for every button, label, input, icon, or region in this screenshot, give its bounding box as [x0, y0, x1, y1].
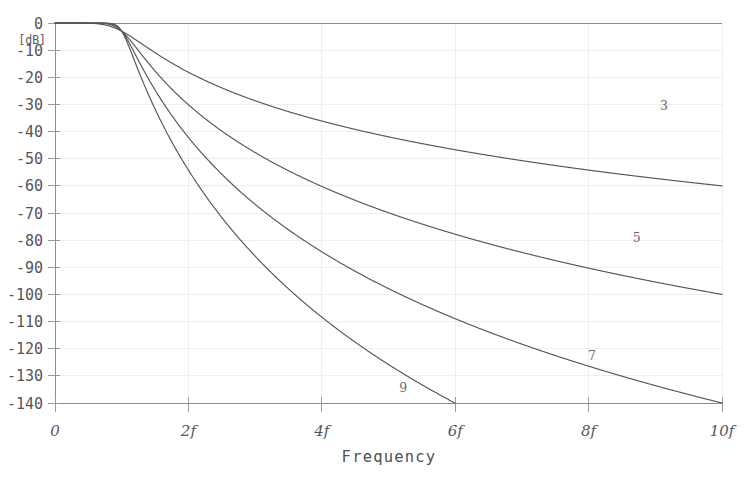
- y-axis-unit-label: [dB]: [18, 33, 46, 47]
- y-tick-label: -110: [7, 313, 43, 331]
- y-tick-label: -120: [7, 340, 43, 358]
- x-tick-label: 0: [50, 422, 60, 440]
- y-tick-label: -30: [16, 96, 43, 114]
- y-tick-label: -70: [16, 205, 43, 223]
- x-tick-label: 2f: [180, 422, 199, 440]
- x-axis-title: Frequency: [342, 448, 437, 466]
- x-tick-label: 4f: [313, 422, 332, 440]
- x-tick-label: 10f: [710, 422, 737, 440]
- curve-label-order-9: 9: [399, 380, 407, 395]
- y-tick-label: -20: [16, 69, 43, 87]
- y-tick-label: -90: [16, 259, 43, 277]
- chart-svg-canvas: 0-10-20-30-40-50-60-70-80-90-100-110-120…: [0, 0, 750, 485]
- curve-label-order-7: 7: [588, 348, 596, 363]
- y-axis-ticks: 0-10-20-30-40-50-60-70-80-90-100-110-120…: [7, 15, 60, 413]
- y-tick-label: 0: [34, 15, 43, 33]
- y-tick-label: -140: [7, 395, 43, 413]
- y-tick-label: -50: [16, 150, 43, 168]
- top-faint-caption: [400, 0, 745, 9]
- y-tick-label: -130: [7, 367, 43, 385]
- filter-response-chart: 0-10-20-30-40-50-60-70-80-90-100-110-120…: [0, 0, 750, 485]
- y-tick-label: -60: [16, 177, 43, 195]
- x-tick-label: 6f: [448, 422, 466, 440]
- y-tick-label: -40: [16, 123, 43, 141]
- x-tick-label: 8f: [581, 422, 599, 440]
- y-tick-label: -80: [16, 232, 43, 250]
- y-tick-label: -100: [7, 286, 43, 304]
- curve-order-labels: 3579: [399, 98, 668, 395]
- curve-label-order-3: 3: [660, 98, 668, 113]
- curve-label-order-5: 5: [633, 230, 641, 245]
